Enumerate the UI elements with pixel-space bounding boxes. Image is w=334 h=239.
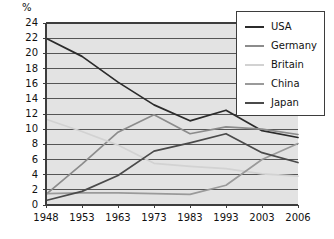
y-tick-label: 22 xyxy=(12,33,38,43)
y-tick-label: 8 xyxy=(12,139,38,149)
legend-item-germany[interactable]: Germany xyxy=(237,36,324,55)
y-tick-label: 20 xyxy=(12,48,38,58)
x-tick-label: 1948 xyxy=(29,213,63,223)
legend-swatch-japan xyxy=(245,102,264,104)
line-chart: % 024681012141618202224 1948195319631973… xyxy=(0,0,334,239)
x-tick-label: 2003 xyxy=(245,213,279,223)
legend-item-china[interactable]: China xyxy=(237,74,324,93)
y-tick-label: 14 xyxy=(12,94,38,104)
y-tick-label: 12 xyxy=(12,109,38,119)
x-tick-label: 1953 xyxy=(65,213,99,223)
legend-swatch-china xyxy=(245,83,264,85)
legend-label-japan: Japan xyxy=(271,97,299,108)
legend-label-china: China xyxy=(271,78,300,89)
y-tick-label: 6 xyxy=(12,155,38,165)
y-tick-label: 0 xyxy=(12,200,38,210)
legend-label-usa: USA xyxy=(271,21,292,32)
legend-swatch-usa xyxy=(245,26,264,28)
y-tick-label: 4 xyxy=(12,170,38,180)
y-axis-unit-label: % xyxy=(22,2,32,13)
legend-label-britain: Britain xyxy=(271,59,304,70)
y-tick-label: 16 xyxy=(12,79,38,89)
chart-legend: USA Germany Britain China Japan xyxy=(236,11,325,116)
x-tick-label: 2006 xyxy=(281,213,315,223)
legend-item-japan[interactable]: Japan xyxy=(237,93,324,112)
x-tick-label: 1983 xyxy=(173,213,207,223)
y-tick-label: 18 xyxy=(12,64,38,74)
y-tick-label: 24 xyxy=(12,18,38,28)
legend-item-britain[interactable]: Britain xyxy=(237,55,324,74)
legend-label-germany: Germany xyxy=(271,40,317,51)
x-tick-label: 1963 xyxy=(101,213,135,223)
legend-swatch-britain xyxy=(245,64,264,66)
x-tick-label: 1973 xyxy=(137,213,171,223)
y-tick-label: 10 xyxy=(12,124,38,134)
legend-swatch-germany xyxy=(245,45,264,47)
legend-item-usa[interactable]: USA xyxy=(237,17,324,36)
y-tick-label: 2 xyxy=(12,185,38,195)
x-tick-label: 1993 xyxy=(209,213,243,223)
